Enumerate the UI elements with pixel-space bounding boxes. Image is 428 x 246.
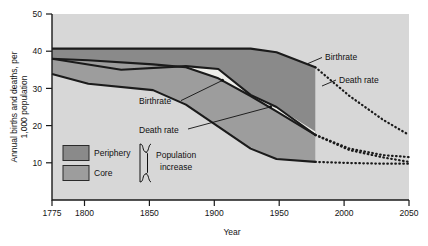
annotation-core-birthrate: Birthrate: [139, 96, 171, 106]
demographic-transition-figure: 50 40 30 20 10 1775 1800 1850 1900 1950 …: [0, 0, 428, 246]
annotation-periphery-birthrate: Birthrate: [325, 52, 357, 62]
y-axis-title-line1: Annual births and deaths, per: [9, 51, 19, 162]
legend-bracket-label-line2: increase: [160, 162, 192, 172]
y-tick-label-40: 40: [33, 46, 43, 56]
y-axis-title-line2: 1,000 population: [19, 75, 29, 138]
x-axis-title: Year: [223, 227, 240, 237]
x-tick-label-1850: 1850: [140, 208, 159, 218]
y-tick-label-50: 50: [33, 9, 43, 19]
leader-dot-core-birthrate: [221, 79, 224, 82]
legend-label-core: Core: [94, 168, 113, 178]
annotation-periphery-deathrate: Death rate: [339, 75, 379, 85]
x-tick-label-1950: 1950: [270, 208, 289, 218]
y-tick-label-10: 10: [33, 158, 43, 168]
x-tick-label-1800: 1800: [75, 208, 94, 218]
x-tick-label-1775: 1775: [43, 208, 62, 218]
y-tick-label-30: 30: [33, 84, 43, 94]
legend-bracket-label-line1: Population: [156, 150, 196, 160]
chart-svg: 50 40 30 20 10 1775 1800 1850 1900 1950 …: [0, 0, 428, 246]
legend-swatch-periphery: [63, 146, 89, 161]
annotation-core-deathrate: Death rate: [139, 125, 179, 135]
legend-label-periphery: Periphery: [94, 148, 131, 158]
leader-dot-core-deathrate: [269, 105, 272, 108]
x-tick-label-1900: 1900: [205, 208, 224, 218]
legend-swatch-core: [63, 166, 89, 181]
x-tick-label-2050: 2050: [400, 208, 419, 218]
x-tick-label-2000: 2000: [335, 208, 354, 218]
y-tick-label-20: 20: [33, 121, 43, 131]
